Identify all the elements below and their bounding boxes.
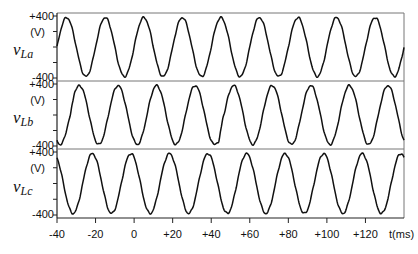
x-tick-label: +20 [163,228,182,240]
y-axis-title: vLc [13,177,33,198]
waveform-vLb [57,85,404,146]
y-axis-title-sub: Lc [20,184,34,198]
x-axis: -40-200+20+40+60+80+100+120t(ms) [49,218,414,240]
x-tick-label: +40 [202,228,221,240]
waveform-vLa [57,17,404,78]
y-unit-label: (V) [30,26,45,38]
y-tick-label-bottom: -400 [32,208,54,220]
x-tick-label: -20 [88,228,104,240]
y-tick-label-top: +400 [29,10,54,22]
x-axis-title: t(ms) [389,228,414,240]
panel-vLa: +400-400(V)vLa [13,10,404,83]
y-tick-label-top: +400 [29,146,54,158]
panel-vLb: +400-400(V)vLb [13,78,404,151]
x-tick-label: +80 [279,228,298,240]
y-tick-label-top: +400 [29,78,54,90]
panel-vLc: +400-400(V)vLc [13,146,404,220]
panels: +400-400(V)vLa+400-400(V)vLb+400-400(V)v… [13,10,404,220]
y-unit-label: (V) [30,94,45,106]
y-axis-title-sub: Lb [20,115,34,129]
y-unit-label: (V) [30,162,45,174]
x-tick-label: -40 [49,228,65,240]
y-axis-title-sub: La [20,47,34,61]
waveform-vLc [57,153,404,214]
x-tick-label: 0 [131,228,137,240]
x-tick-label: +60 [240,228,259,240]
x-tick-label: +120 [353,228,378,240]
x-tick-label: +100 [314,228,339,240]
y-axis-title: vLb [13,108,33,129]
y-axis-title: vLa [13,40,33,61]
three-phase-voltage-chart: +400-400(V)vLa+400-400(V)vLb+400-400(V)v… [0,0,418,254]
